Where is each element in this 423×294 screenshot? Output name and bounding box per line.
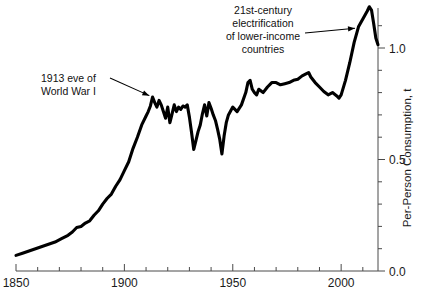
chart-figure: 1850190019502000 0.00.51.0 Per-Person Co… [0,0,423,294]
annotation-wwi-line-2: World War I [41,85,96,97]
y-axis-tick-label: 1.0 [389,42,406,56]
annotation-electrification-line-2: electrification [232,17,293,29]
x-axis-tick-label: 1850 [3,276,30,290]
annotation-electrification-line-1: 21st-century [234,4,293,16]
annotation-electrification-line-4: countries [242,43,285,55]
y-axis-tick-label: 0.0 [389,265,406,279]
chart-background [0,0,423,294]
annotation-wwi-line-1: 1913 eve of [41,72,96,84]
annotation-electrification-line-3: of lower-income [226,30,300,42]
line-chart-canvas: 1850190019502000 0.00.51.0 Per-Person Co… [0,0,423,294]
x-axis-tick-label: 1950 [219,276,246,290]
x-axis-tick-label: 2000 [328,276,355,290]
y-axis-title: Per-Person Consumption, t [401,88,413,228]
x-axis-tick-label: 1900 [111,276,138,290]
